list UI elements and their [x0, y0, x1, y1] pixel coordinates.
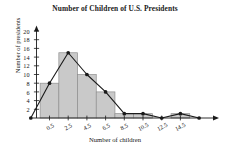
data-point-marker: [160, 116, 164, 120]
data-point-marker: [29, 116, 33, 120]
data-point-marker: [48, 81, 52, 85]
x-axis-label: Number of children: [0, 136, 230, 143]
histogram-bar: [96, 92, 115, 118]
data-point-marker: [179, 112, 183, 116]
data-point-marker: [141, 112, 145, 116]
data-point-marker: [66, 51, 70, 55]
y-tick-label: 2: [16, 106, 30, 113]
data-point-marker: [197, 116, 201, 120]
data-point-marker: [122, 112, 126, 116]
histogram-bar: [40, 83, 59, 118]
x-axis-arrow-icon: [213, 116, 219, 121]
y-axis-label: Number of presidents: [14, 0, 21, 101]
data-point-marker: [85, 73, 89, 77]
data-point-marker: [104, 90, 108, 94]
chart-figure: Number of Children of U.S. Presidents 24…: [0, 0, 230, 151]
